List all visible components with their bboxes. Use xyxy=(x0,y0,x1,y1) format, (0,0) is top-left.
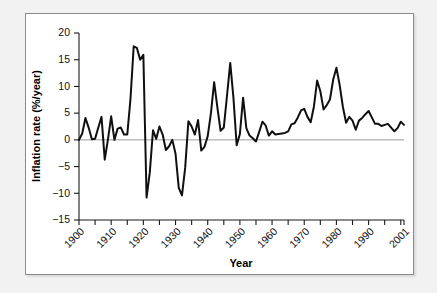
x-tick-label-1900: 1900 xyxy=(61,225,86,250)
x-tick-label-1960: 1960 xyxy=(254,225,279,250)
x-tick-label-1990: 1990 xyxy=(351,225,376,250)
inflation-series-line xyxy=(79,46,404,197)
chart-page: 20151050−5−10−15 19001910192019301940195… xyxy=(0,0,437,293)
x-tick-label-2001: 2001 xyxy=(386,225,411,250)
y-tick-label-5: 5 xyxy=(64,106,70,118)
x-tick-label-1930: 1930 xyxy=(158,225,183,250)
y-tick-label--15: −15 xyxy=(52,213,70,225)
x-tick-label-1950: 1950 xyxy=(222,225,247,250)
x-tick-label-1970: 1970 xyxy=(287,225,312,250)
y-axis-title: Inflation rate (%/year) xyxy=(30,70,42,182)
y-tick-label-20: 20 xyxy=(58,26,70,38)
y-tick-label--10: −10 xyxy=(52,187,70,199)
y-tick-label--5: −5 xyxy=(58,160,70,172)
x-tick-group xyxy=(79,220,404,225)
inflation-rate-line-chart: 20151050−5−10−15 19001910192019301940195… xyxy=(26,14,412,273)
x-axis-title: Year xyxy=(229,257,253,269)
x-tick-label-1980: 1980 xyxy=(319,225,344,250)
y-tick-label-0: 0 xyxy=(64,133,70,145)
figure-frame: 20151050−5−10−15 19001910192019301940195… xyxy=(25,13,414,275)
y-tick-label-group: 20151050−5−10−15 xyxy=(52,26,70,225)
y-tick-label-15: 15 xyxy=(58,53,70,65)
x-tick-label-1910: 1910 xyxy=(94,225,119,250)
x-tick-label-1920: 1920 xyxy=(126,225,151,250)
x-tick-label-group: 1900191019201930194019501960197019801990… xyxy=(61,225,411,250)
x-tick-label-1940: 1940 xyxy=(190,225,215,250)
y-tick-label-10: 10 xyxy=(58,80,70,92)
y-tick-group xyxy=(74,33,79,220)
